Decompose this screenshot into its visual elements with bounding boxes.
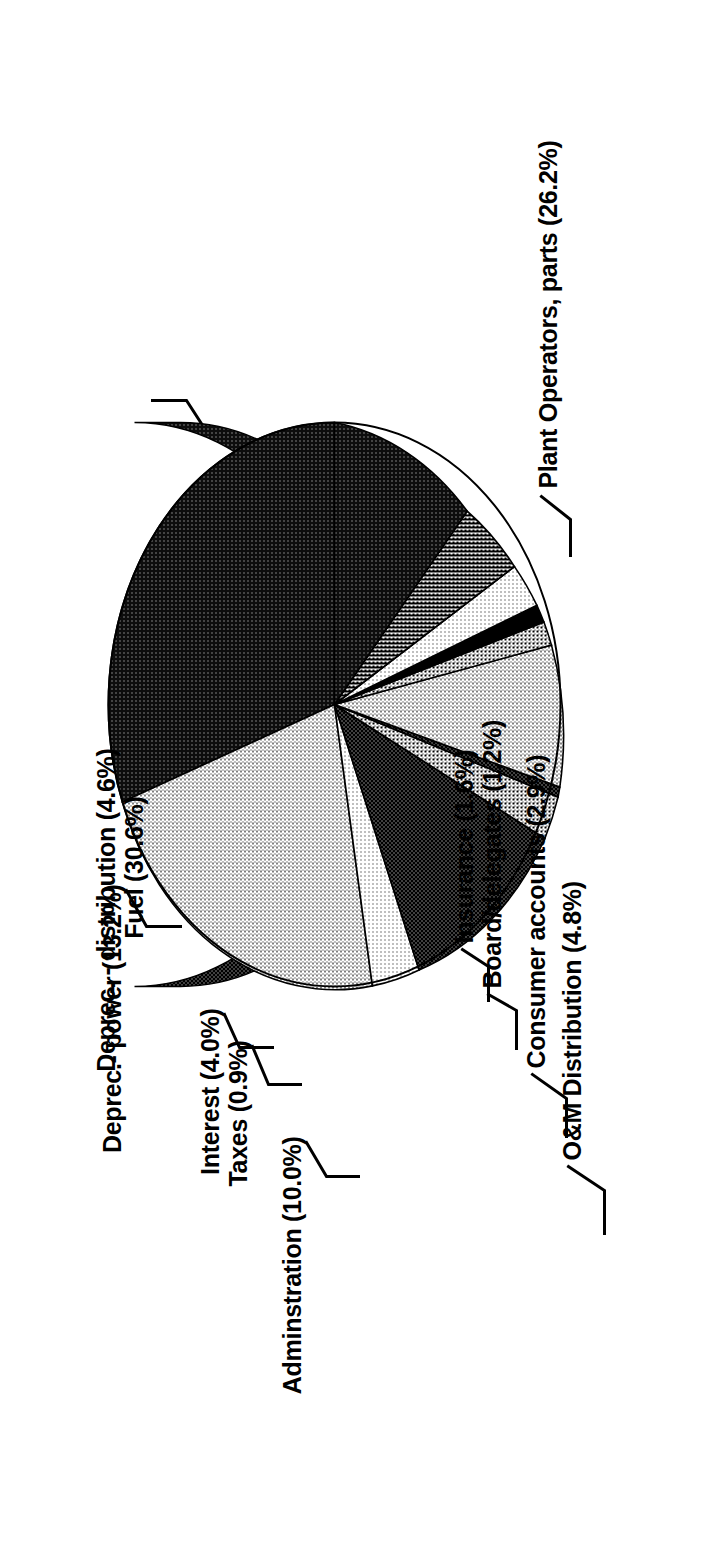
pie-svg (88, 368, 580, 1040)
leader-line-taxes (252, 1046, 300, 1084)
pie-label-board-delegates: Board/delegates (1.2%) (478, 720, 505, 989)
pie-label-interest: Interest (4.0%) (196, 1008, 223, 1428)
leader-line-om-distribution (568, 1166, 604, 1233)
pie-label-consumer-accounts: Consumer accounts (2.9%) (522, 754, 549, 1068)
pie-label-om-distribution: O&M Distribution (4.8%) (558, 881, 585, 1160)
pie-graphic (88, 368, 580, 1040)
chart-page: Fuel (30.6%) Plant Operators, parts (26.… (0, 0, 703, 1566)
pie-label-insurance: Insurance (1.6%) (450, 749, 477, 943)
leader-line-adminstration (306, 1142, 358, 1176)
pie-label-taxes: Taxes (0.9%) (224, 1040, 251, 1460)
pie-label-plant-operators: Plant Operators, parts (26.2%) (534, 140, 561, 488)
pie-label-deprec-power: Deprec.- power (13.2%) (98, 884, 125, 1444)
pie-label-adminstration: Adminstration (10.0%) (278, 1136, 305, 1566)
pie-chart-stage: Fuel (30.6%) Plant Operators, parts (26.… (0, 0, 703, 1566)
